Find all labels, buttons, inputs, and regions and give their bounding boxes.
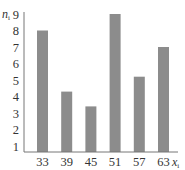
bar-chart: 123456789 333945515763 ni xi	[0, 0, 185, 170]
y-tick-label: 8	[13, 24, 19, 38]
y-tick-label: 4	[13, 90, 20, 104]
bars	[37, 14, 169, 152]
x-tick-label: 39	[60, 155, 73, 169]
y-axis-tick-labels: 123456789	[13, 8, 20, 154]
y-axis-label: ni	[2, 7, 10, 22]
x-tick-label: 45	[85, 155, 98, 169]
x-tick-label: 57	[133, 155, 146, 169]
bar-39	[61, 92, 72, 152]
x-axis-tick-labels: 333945515763	[36, 155, 170, 169]
bar-51	[110, 14, 121, 152]
y-tick-label: 2	[13, 123, 19, 137]
y-tick-label: 6	[13, 57, 19, 71]
x-tick-label: 63	[157, 155, 170, 169]
y-tick-label: 7	[13, 41, 19, 55]
bar-57	[134, 77, 145, 152]
y-tick-label: 1	[13, 140, 19, 154]
y-tick-label: 3	[13, 107, 19, 121]
bar-63	[158, 47, 169, 152]
x-axis-label: xi	[171, 155, 179, 170]
y-tick-label: 5	[13, 74, 19, 88]
bar-45	[85, 106, 96, 152]
x-tick-label: 33	[36, 155, 49, 169]
x-tick-label: 51	[109, 155, 122, 169]
y-tick-label: 9	[13, 8, 19, 22]
bar-33	[37, 31, 48, 153]
